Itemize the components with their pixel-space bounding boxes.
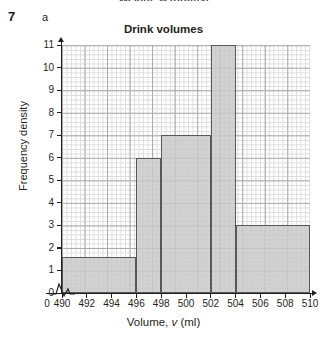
- plot-area: [62, 45, 310, 293]
- y-tick-label-5: 5: [32, 175, 54, 185]
- x-tick-496: [136, 293, 137, 298]
- y-tick-9: [57, 90, 62, 91]
- x-tick-500: [186, 293, 187, 298]
- y-tick-label-8: 8: [32, 108, 54, 118]
- x-tick-498: [161, 293, 162, 298]
- x-tick-494: [111, 293, 112, 298]
- y-tick-label-10: 10: [32, 63, 54, 73]
- y-tick-label-9: 9: [32, 85, 54, 95]
- y-tick-label-4: 4: [32, 198, 54, 208]
- y-axis-arrow: [58, 37, 64, 42]
- y-tick-8: [57, 112, 62, 113]
- bar-504-510: [236, 225, 310, 293]
- y-tick-label-1: 1: [32, 265, 54, 275]
- y-tick-3: [57, 225, 62, 226]
- y-tick-10: [57, 67, 62, 68]
- x-axis-label: Volume, v (ml): [0, 316, 327, 328]
- y-axis-label: Frequency density: [17, 66, 29, 226]
- y-tick-6: [57, 157, 62, 158]
- y-tick-7: [57, 135, 62, 136]
- x-tick-504: [235, 293, 236, 298]
- y-tick-5: [57, 180, 62, 181]
- y-tick-2: [57, 247, 62, 248]
- y-tick-label-7: 7: [32, 130, 54, 140]
- x-tick-label-510: 510: [295, 299, 325, 309]
- x-axis-label-prefix: Volume,: [127, 316, 172, 328]
- y-tick-label-3: 3: [32, 220, 54, 230]
- y-tick-label-2: 2: [32, 243, 54, 253]
- x-axis-break-zigzag: [50, 280, 76, 298]
- x-tick-502: [210, 293, 211, 298]
- bar-498-502: [161, 135, 211, 293]
- x-axis-label-suffix: (ml): [177, 316, 200, 328]
- bar-series: [62, 45, 310, 293]
- y-axis-line: [61, 41, 62, 294]
- y-tick-label-6: 6: [32, 153, 54, 163]
- x-tick-label-origin: 0: [32, 299, 62, 309]
- x-tick-510: [310, 293, 311, 298]
- bar-496-498: [136, 158, 161, 293]
- y-tick-11: [57, 45, 62, 46]
- x-axis-arrow: [312, 290, 317, 296]
- x-tick-508: [285, 293, 286, 298]
- y-tick-4: [57, 202, 62, 203]
- histogram-figure: 01234567891011 4904924944964985005025045…: [0, 0, 327, 350]
- y-tick-label-11: 11: [32, 40, 54, 50]
- y-tick-1: [57, 270, 62, 271]
- x-tick-506: [260, 293, 261, 298]
- x-tick-492: [86, 293, 87, 298]
- bar-502-504: [211, 45, 236, 293]
